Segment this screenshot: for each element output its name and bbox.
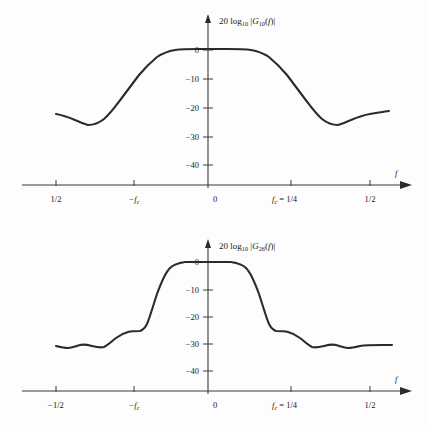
- y-axis-arrowhead-top: [205, 14, 211, 23]
- x-axis-arrowhead-bottom: [400, 387, 412, 395]
- y-tick-label-top-3: −30: [186, 132, 199, 142]
- chart-panel-g26: 0 −10 −20 −30 −40 −1/2 −fc 0 fc = 1/4 1/…: [0, 213, 429, 426]
- y-tick-label-top-4: −40: [186, 160, 199, 170]
- chart-panel-g10: 0 −10 −20 −30 −40 1/2 −fc 0 fc = 1/4 1/2…: [0, 0, 429, 213]
- x-axis-title-top: f: [395, 168, 399, 178]
- x-tick-label-top-4: 1/2: [365, 194, 376, 204]
- chart-title-bottom: 20 log10 |G26(f)|: [219, 241, 275, 252]
- y-tick-label-bottom-4: −40: [186, 366, 199, 376]
- x-tick-label-top-2: 0: [213, 194, 217, 204]
- x-tick-label-top-1: −fc: [129, 194, 140, 205]
- x-tick-label-bottom-0: −1/2: [48, 400, 64, 410]
- y-tick-label-bottom-3: −30: [186, 339, 199, 349]
- x-tick-label-bottom-4: 1/2: [365, 400, 376, 410]
- y-tick-label-bottom-1: −10: [186, 285, 199, 295]
- y-tick-label-top-1: −10: [186, 74, 199, 84]
- x-tick-label-bottom-3: fc = 1/4: [272, 400, 298, 411]
- x-axis-title-bottom: f: [395, 374, 399, 384]
- y-tick-label-top-2: −20: [186, 103, 199, 113]
- y-tick-label-bottom-2: −20: [186, 312, 199, 322]
- x-tick-label-top-3: fc = 1/4: [272, 194, 298, 205]
- x-tick-label-top-0: 1/2: [51, 194, 62, 204]
- chart-title-top: 20 log10 |G10(f)|: [219, 16, 275, 27]
- figure-container: 0 −10 −20 −30 −40 1/2 −fc 0 fc = 1/4 1/2…: [0, 0, 429, 426]
- y-axis-arrowhead-bottom: [205, 239, 211, 248]
- x-tick-label-bottom-2: 0: [213, 400, 217, 410]
- response-curve-g26: [56, 262, 392, 348]
- x-axis-arrowhead-top: [400, 181, 412, 189]
- response-curve-g10: [56, 49, 389, 125]
- x-tick-label-bottom-1: −fc: [129, 400, 140, 411]
